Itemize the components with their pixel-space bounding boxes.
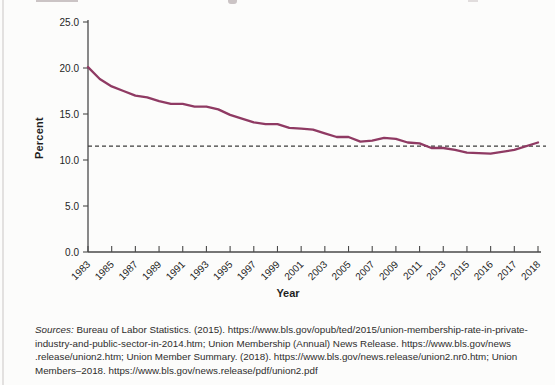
x-tick-label: 2015 — [448, 258, 472, 282]
x-tick-label: 2016 — [472, 258, 496, 282]
x-tick-label: 2009 — [377, 258, 401, 282]
y-tick-label: 20.0 — [60, 63, 80, 74]
x-tick-label: 1985 — [93, 258, 117, 282]
x-tick-label: 1983 — [69, 258, 93, 282]
sources-line: Sources: Bureau of Labor Statistics. (20… — [35, 323, 550, 337]
x-tick-label: 1997 — [235, 258, 259, 282]
scanned-chart-page: Percent 25.020.015.010.05.00.01983198519… — [0, 0, 555, 385]
sources-line: industry-and-public-sector-in-2014.htm; … — [35, 337, 550, 351]
union-membership-line-chart: 25.020.015.010.05.00.0198319851987198919… — [0, 0, 555, 315]
x-tick-label: 2007 — [353, 258, 377, 282]
x-tick-label: 2011 — [401, 258, 424, 281]
y-tick-label: 5.0 — [65, 201, 79, 212]
x-tick-label: 2001 — [282, 258, 306, 282]
x-tick-label: 1999 — [258, 258, 282, 282]
x-tick-label: 1989 — [140, 258, 164, 282]
sources-prefix: Sources: — [35, 324, 74, 335]
x-tick-label: 2005 — [329, 258, 353, 282]
x-tick-label: 1993 — [187, 258, 211, 282]
y-tick-label: 10.0 — [60, 155, 80, 166]
x-tick-label: 1987 — [116, 258, 140, 282]
y-tick-label: 25.0 — [60, 17, 80, 28]
union-membership-trend-line — [88, 67, 538, 154]
x-tick-label: 2017 — [495, 258, 519, 282]
x-tick-label: 2003 — [306, 258, 330, 282]
y-tick-label: 15.0 — [60, 109, 80, 120]
x-tick-label: 2018 — [519, 258, 543, 282]
sources-line: .release/union2.htm; Union Member Summar… — [35, 350, 550, 364]
sources-line-text: Bureau of Labor Statistics. (2015). http… — [74, 324, 528, 335]
y-tick-label: 0.0 — [65, 247, 79, 258]
x-tick-label: 1995 — [211, 258, 235, 282]
x-tick-label: 1991 — [164, 258, 188, 282]
sources-note: Sources: Bureau of Labor Statistics. (20… — [35, 323, 550, 377]
x-axis-title: Year — [248, 287, 328, 299]
sources-line: Members–2018. https://www.bls.gov/news.r… — [35, 364, 550, 378]
x-tick-label: 2013 — [424, 258, 448, 282]
